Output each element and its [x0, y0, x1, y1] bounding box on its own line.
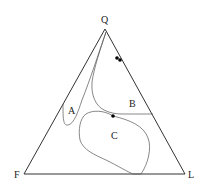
- ternary-triangle: [24, 29, 185, 174]
- vertex-label-l: L: [188, 169, 194, 180]
- diagram-canvas: Q F L A B C: [0, 0, 205, 193]
- data-point: [118, 58, 122, 62]
- field-label-b: B: [129, 98, 136, 109]
- qfl-ternary-diagram: Q F L A B C: [0, 0, 205, 193]
- vertex-label-f: F: [14, 169, 20, 180]
- field-b-left-boundary: [92, 32, 153, 114]
- field-c-boundary: [79, 111, 149, 174]
- data-point: [115, 56, 119, 60]
- field-label-c: C: [111, 130, 118, 141]
- field-label-a: A: [68, 105, 76, 116]
- vertex-label-q: Q: [101, 14, 109, 25]
- data-point: [111, 114, 115, 118]
